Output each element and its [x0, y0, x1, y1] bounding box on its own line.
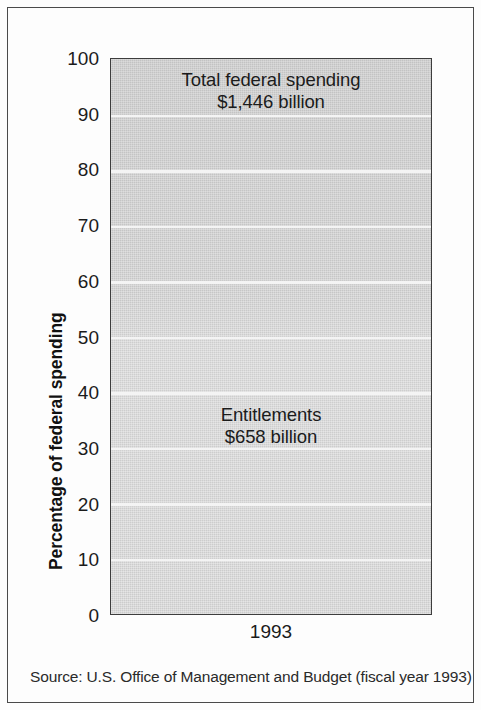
gridline-10	[111, 559, 431, 562]
y-tick-10: 10	[24, 550, 110, 569]
gridline-40	[111, 392, 431, 395]
y-tick-40: 40	[24, 383, 110, 402]
y-tick-80: 80	[24, 160, 110, 179]
y-tick-100: 100	[24, 49, 110, 68]
annotation-total-federal-spending: Total federal spending $1,446 billion	[111, 69, 431, 113]
gridline-50	[111, 337, 431, 340]
y-tick-0: 0	[24, 606, 110, 625]
bar-1993: Total federal spending $1,446 billion En…	[110, 58, 432, 615]
y-axis-tick-labels: 100 90 80 70 60 50 40 30 20 10 0	[0, 58, 110, 615]
annotation-total-line2: $1,446 billion	[111, 91, 431, 113]
y-tick-70: 70	[24, 216, 110, 235]
gridline-20	[111, 503, 431, 506]
y-tick-50: 50	[24, 327, 110, 346]
annotation-entitlements-line1: Entitlements	[111, 404, 431, 426]
annotation-entitlements-line2: $658 billion	[111, 426, 431, 448]
annotation-entitlements: Entitlements $658 billion	[111, 404, 431, 448]
gridline-60	[111, 281, 431, 284]
gridline-70	[111, 226, 431, 229]
y-tick-90: 90	[24, 104, 110, 123]
y-tick-30: 30	[24, 438, 110, 457]
gridline-90	[111, 115, 431, 118]
y-tick-20: 20	[24, 494, 110, 513]
x-axis-tick-1993: 1993	[110, 621, 432, 643]
annotation-total-line1: Total federal spending	[111, 69, 431, 91]
chart-figure: Percentage of federal spending 100 90 80…	[0, 0, 481, 710]
gridline-30	[111, 448, 431, 451]
source-note: Source: U.S. Office of Management and Bu…	[30, 668, 472, 686]
y-tick-60: 60	[24, 271, 110, 290]
gridline-80	[111, 170, 431, 173]
